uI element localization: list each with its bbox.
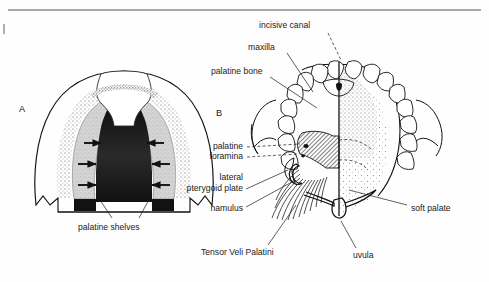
label-maxilla: maxilla — [248, 42, 275, 52]
palate-anatomy-figure: A palatine shelves — [0, 0, 489, 282]
label-palatine-bone: palatine bone — [211, 66, 263, 76]
margin-mark — [3, 24, 5, 34]
label-hamulus: hamulus — [211, 203, 243, 213]
label-palatine-foramina-line2: foramina — [210, 151, 244, 161]
label-soft-palate: soft palate — [411, 203, 451, 213]
label-lateral-pterygoid-plate-line1: lateral — [220, 172, 243, 182]
label-palatine-foramina-line1: palatine — [213, 141, 243, 151]
label-palatine-shelves: palatine shelves — [78, 222, 140, 232]
label-incisive-canal: incisive canal — [259, 20, 310, 30]
label-lateral-pterygoid-plate-line2: pterygoid plate — [187, 183, 244, 193]
palatine-foramen-left — [303, 144, 308, 148]
label-uvula: uvula — [353, 250, 374, 260]
tooth-r5 — [397, 99, 413, 117]
panel-label-a: A — [19, 104, 26, 114]
tooth-l5 — [281, 99, 297, 117]
palatine-foramen-left-minor — [301, 155, 305, 158]
panel-label-b: B — [216, 108, 222, 118]
panel-a-basal-band-right — [152, 199, 174, 211]
label-tensor-veli-palatini: Tensor Veli Palatini — [201, 247, 274, 257]
panel-a-basal-band-left — [74, 199, 96, 211]
